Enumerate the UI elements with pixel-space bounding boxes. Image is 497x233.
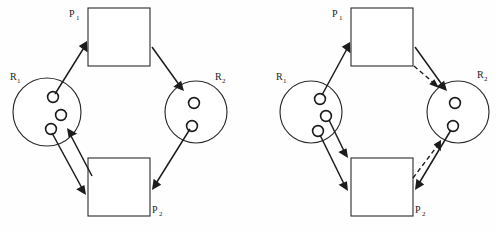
- resource-label-r2-right: R: [477, 69, 484, 80]
- resource-instance-r2-right-2: [448, 121, 459, 132]
- resource-label-r2-left: R: [215, 71, 222, 82]
- resource-instance-r1-right-1: [315, 94, 326, 105]
- resource-instance-r1-left-1: [48, 92, 59, 103]
- edge-r1-to-p1-left: [55, 41, 88, 94]
- edge-p2-to-r2-dashed-right: [413, 140, 441, 178]
- process-node-p1-left[interactable]: [88, 8, 150, 66]
- edge-p1-to-r2-dashed-right: [414, 66, 439, 88]
- edge-r2-to-p2-right: [415, 130, 451, 190]
- process-node-p1-right[interactable]: [351, 8, 413, 66]
- process-node-p2-right[interactable]: [351, 158, 413, 216]
- resource-instance-r1-left-2: [56, 110, 67, 121]
- process-label-p1-left: P: [69, 8, 75, 19]
- process-node-p2-left[interactable]: [88, 158, 150, 216]
- edge-r1-to-p2-left: [52, 133, 86, 195]
- edge-p1-to-r2-left: [152, 47, 184, 91]
- process-label-p1-right: P: [332, 8, 338, 19]
- resource-instance-r2-left-2: [187, 121, 198, 132]
- resource-instance-r2-right-1: [450, 98, 461, 109]
- diagram-left: P 1 P 2 R 1 R 2: [10, 8, 227, 218]
- diagram-right: P 1 P 2 R 1 R 2: [276, 8, 489, 218]
- edge-r1-to-p2-b-right: [320, 135, 348, 191]
- resource-label-r1-right: R: [276, 71, 283, 82]
- process-label-p1-right-subscript: 1: [339, 14, 343, 22]
- figure-root: P 1 P 2 R 1 R 2: [0, 0, 497, 233]
- resource-label-r1-right-subscript: 1: [283, 77, 287, 85]
- resource-node-r2-right[interactable]: [427, 81, 489, 143]
- resource-instance-r1-right-2: [321, 111, 332, 122]
- process-label-p2-left-subscript: 2: [159, 210, 163, 218]
- process-label-p2-left: P: [152, 204, 158, 215]
- resource-instance-r1-right-3: [313, 126, 324, 137]
- resource-node-r2-left[interactable]: [165, 81, 227, 143]
- edge-r2-to-p2-left: [152, 129, 190, 190]
- resource-node-r1-right[interactable]: [280, 81, 342, 143]
- resource-label-r2-left-subscript: 2: [222, 77, 226, 85]
- process-label-p2-right-subscript: 2: [422, 210, 426, 218]
- resource-instance-r2-left-1: [189, 98, 200, 109]
- diagram-canvas: P 1 P 2 R 1 R 2: [0, 0, 497, 233]
- resource-label-r1-left-subscript: 1: [17, 77, 21, 85]
- resource-label-r2-right-subscript: 2: [484, 75, 488, 83]
- process-label-p2-right: P: [415, 204, 421, 215]
- resource-label-r1-left: R: [10, 71, 17, 82]
- edge-r1-to-p1-right: [322, 42, 350, 95]
- resource-instance-r1-left-3: [46, 124, 57, 135]
- process-label-p1-left-subscript: 1: [76, 14, 80, 22]
